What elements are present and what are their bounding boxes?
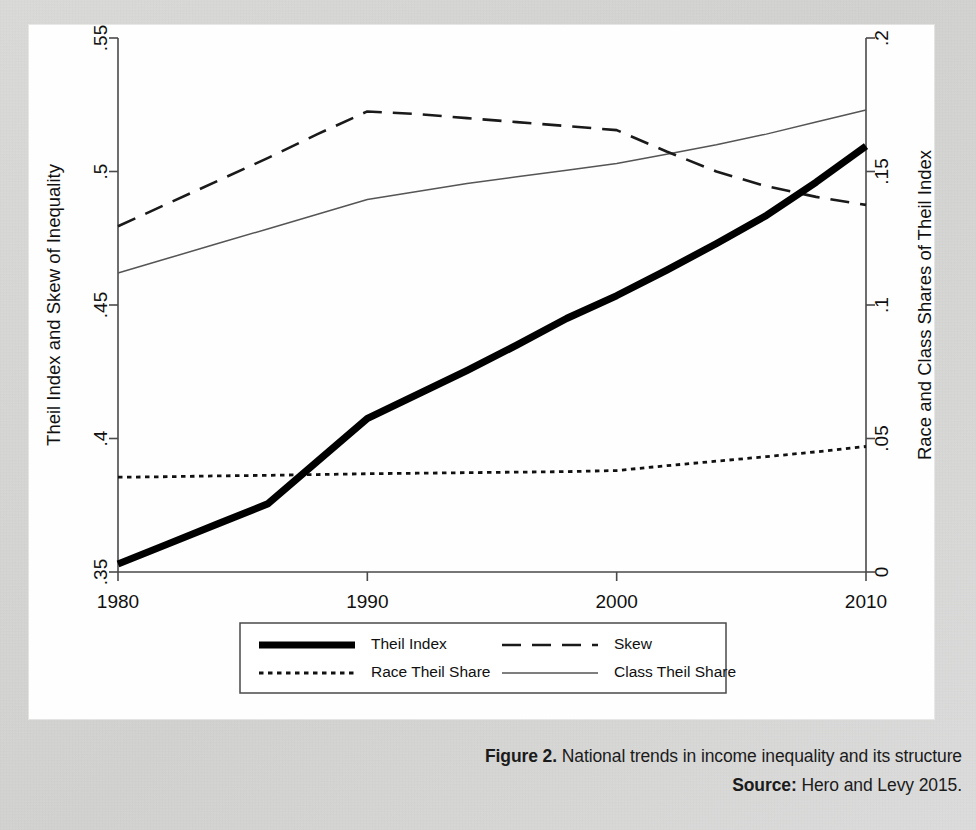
caption-figure-number: Figure 2. (485, 746, 557, 766)
caption-source-line: Source: Hero and Levy 2015. (0, 771, 962, 800)
left-tick-label: .35 (90, 559, 111, 585)
series-line-theil-index (118, 146, 866, 564)
caption-title-line: Figure 2. National trends in income ineq… (0, 742, 962, 771)
left-tick-label: .45 (90, 292, 111, 318)
caption-figure-text: National trends in income inequality and… (557, 746, 962, 766)
right-tick-label: .05 (871, 425, 892, 451)
x-tick-label: 2010 (845, 591, 887, 612)
left-axis-ticks: .35.4.45.5.55 (90, 25, 118, 585)
left-axis-title: Theil Index and Skew of Inequality (43, 163, 64, 446)
legend-box (240, 623, 726, 693)
x-tick-label: 1980 (97, 591, 139, 612)
legend-label: Theil Index (371, 635, 447, 652)
right-axis-ticks: 0.05.1.15.2 (866, 30, 892, 577)
right-tick-label: 0 (871, 567, 892, 578)
legend-label: Class Theil Share (614, 663, 736, 680)
figure-caption: Figure 2. National trends in income ineq… (0, 742, 962, 800)
right-tick-label: .1 (871, 297, 892, 313)
left-tick-label: .4 (90, 430, 111, 446)
left-tick-label: .5 (90, 164, 111, 180)
caption-source-label: Source: (732, 775, 796, 795)
caption-source-text: Hero and Levy 2015. (797, 775, 962, 795)
figure-panel: .35.4.45.5.55 0.05.1.15.2 19801990200020… (29, 25, 934, 719)
series-line-class-theil-share (118, 110, 866, 273)
legend-label: Skew (614, 635, 653, 652)
chart-svg: .35.4.45.5.55 0.05.1.15.2 19801990200020… (29, 25, 934, 719)
right-tick-label: .2 (871, 30, 892, 46)
right-tick-label: .15 (871, 158, 892, 184)
x-tick-label: 1990 (346, 591, 388, 612)
plot-frame (118, 38, 866, 572)
right-axis-title: Race and Class Shares of Theil Index (914, 149, 934, 460)
series-line-skew (118, 111, 866, 226)
left-tick-label: .55 (90, 25, 111, 51)
chart-plot-area: .35.4.45.5.55 0.05.1.15.2 19801990200020… (29, 25, 934, 719)
legend-label: Race Theil Share (371, 663, 490, 680)
axis-frame (118, 38, 866, 572)
data-series-group (118, 110, 866, 564)
series-line-race-theil-share (118, 447, 866, 478)
x-tick-label: 2000 (596, 591, 638, 612)
chart-legend: Theil IndexSkewRace Theil ShareClass The… (240, 623, 736, 693)
x-axis-ticks: 1980199020002010 (97, 572, 887, 612)
